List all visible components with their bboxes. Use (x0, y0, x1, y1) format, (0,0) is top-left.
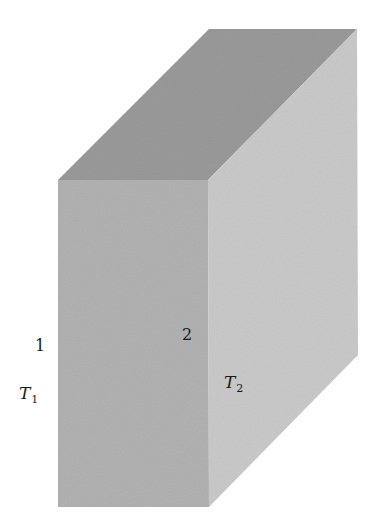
temperature-t1-symbol: T (19, 383, 30, 403)
temperature-t2-symbol: T (224, 372, 235, 392)
temperature-t1-label: T1 (19, 385, 38, 405)
face-1-label: 1 (35, 338, 45, 354)
slab-diagram (0, 0, 376, 530)
temperature-t2-subscript: 2 (236, 382, 243, 395)
face-2-label: 2 (182, 327, 192, 343)
temperature-t2-label: T2 (224, 374, 243, 394)
temperature-t1-subscript: 1 (31, 393, 38, 406)
